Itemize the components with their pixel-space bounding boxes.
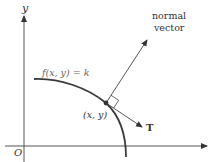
normal-label-line2: vector bbox=[153, 22, 185, 33]
curve-label: f(x, y) = k bbox=[41, 67, 90, 78]
tangent-vector bbox=[106, 103, 142, 127]
level-curve-diagram: y O f(x, y) = k normal vector T (x, y) bbox=[0, 0, 212, 162]
level-curve bbox=[34, 79, 126, 157]
origin-label: O bbox=[14, 147, 22, 158]
y-axis-label: y bbox=[21, 2, 29, 15]
point-label: (x, y) bbox=[83, 109, 107, 120]
normal-label-line1: normal bbox=[152, 10, 186, 21]
right-angle-marker bbox=[111, 95, 119, 108]
point-marker bbox=[104, 101, 109, 106]
normal-vector bbox=[106, 40, 147, 103]
tangent-label: T bbox=[146, 122, 154, 133]
